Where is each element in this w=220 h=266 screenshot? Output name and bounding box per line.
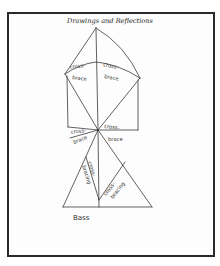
- label-mid-left-bottom: brace: [72, 134, 88, 145]
- diagonal-left: [65, 74, 98, 130]
- label-mid-right-bottom: brace: [108, 136, 123, 142]
- kite-right-edge: [96, 28, 140, 78]
- label-upper-left-bottom: brace: [72, 74, 87, 82]
- label-mid-right-top: cross-: [104, 123, 120, 131]
- side-left: [67, 76, 68, 127]
- label-upper-right-top: cross-: [103, 61, 119, 70]
- caption-bass: Bass: [73, 214, 90, 222]
- sketch-drawing: cross- brace cross- brace cross- brace c…: [0, 0, 220, 266]
- label-upper-right-bottom: brace: [104, 73, 119, 81]
- label-upper-left-top: cross-: [69, 62, 85, 70]
- center-vertical: [96, 28, 98, 130]
- lower-center-vertical: [98, 130, 99, 207]
